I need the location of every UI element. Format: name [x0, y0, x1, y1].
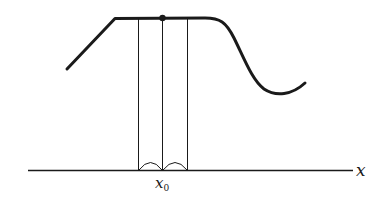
x-axis-label: x [356, 160, 366, 180]
function-curve [67, 18, 305, 94]
diagram-canvas: x x0 [0, 0, 386, 200]
right-interval-arc [163, 163, 187, 171]
x0-label: x0 [155, 174, 169, 193]
point-x0-marker [159, 15, 165, 21]
x0-label-subscript: 0 [163, 183, 169, 193]
left-interval-arc [139, 163, 162, 171]
